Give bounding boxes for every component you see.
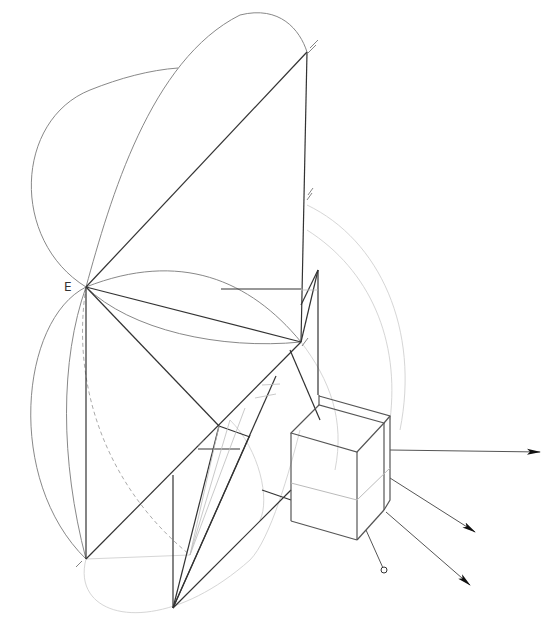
arrow-east (390, 450, 540, 452)
point-e-label: E (64, 280, 72, 294)
open-arrow-tip-icon (381, 567, 387, 573)
cube-midline (291, 468, 390, 500)
arrow-southeast-2 (386, 512, 470, 585)
curve-lines (31, 13, 307, 559)
construction-diagram (0, 0, 555, 629)
arrow-southeast-1 (390, 478, 475, 532)
arrows (366, 450, 540, 585)
main-lines (86, 52, 320, 608)
arrow-south (366, 530, 383, 568)
tick-marks (76, 40, 318, 567)
cube (291, 395, 390, 540)
dashed-arc (83, 287, 190, 555)
